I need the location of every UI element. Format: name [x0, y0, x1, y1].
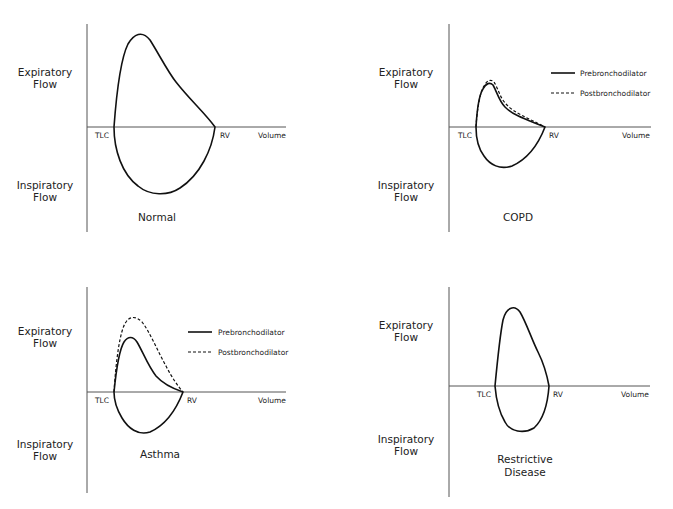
panel-copd: Expiratory Flow Inspiratory Flow TLC RV …	[378, 24, 652, 232]
postbronchodilator-curve	[114, 318, 183, 393]
rv-label: RV	[549, 131, 560, 140]
inspiratory-label-line2: Flow	[394, 191, 418, 203]
inspiratory-label-line1: Inspiratory	[17, 438, 74, 450]
legend-prebronchodilator: Prebronchodilator	[580, 69, 647, 78]
expiratory-label-line1: Expiratory	[18, 325, 72, 337]
panel-normal: Expiratory Flow Inspiratory Flow TLC RV …	[17, 24, 287, 232]
legend-postbronchodilator: Postbronchodilator	[580, 89, 651, 98]
inspiratory-label-line1: Inspiratory	[378, 433, 435, 445]
panel-title: Asthma	[140, 448, 180, 460]
inspiratory-label-line1: Inspiratory	[378, 179, 435, 191]
panel-title: Normal	[138, 211, 176, 223]
postbronchodilator-curve	[476, 80, 545, 127]
expiratory-label-line2: Flow	[33, 337, 57, 349]
rv-label: RV	[220, 131, 231, 140]
legend-prebronchodilator: Prebronchodilator	[218, 328, 285, 337]
flow-volume-loop	[114, 34, 215, 194]
expiratory-label-line1: Expiratory	[379, 319, 433, 331]
volume-label: Volume	[622, 131, 650, 140]
expiratory-label-line2: Flow	[394, 78, 418, 90]
expiratory-label-line2: Flow	[394, 331, 418, 343]
panel-title-line2: Disease	[504, 466, 545, 478]
expiratory-label-line1: Expiratory	[379, 66, 433, 78]
tlc-label: TLC	[94, 131, 109, 140]
expiratory-label-line1: Expiratory	[18, 66, 72, 78]
tlc-label: TLC	[457, 131, 472, 140]
rv-label: RV	[553, 390, 564, 399]
expiratory-label-line2: Flow	[33, 78, 57, 90]
panel-asthma: Expiratory Flow Inspiratory Flow TLC RV …	[17, 287, 290, 493]
flow-volume-loop	[495, 308, 549, 432]
inspiratory-label-line2: Flow	[394, 445, 418, 457]
inspiratory-label-line1: Inspiratory	[17, 179, 74, 191]
rv-label: RV	[187, 396, 198, 405]
tlc-label: TLC	[94, 396, 109, 405]
volume-label: Volume	[258, 131, 286, 140]
panel-restrictive: Expiratory Flow Inspiratory Flow TLC RV …	[378, 287, 650, 497]
inspiratory-label-line2: Flow	[33, 191, 57, 203]
inspiratory-label-line2: Flow	[33, 450, 57, 462]
prebronchodilator-curve	[114, 338, 183, 434]
panel-title-line1: Restrictive	[497, 453, 553, 465]
flow-volume-diagram: Expiratory Flow Inspiratory Flow TLC RV …	[0, 0, 673, 509]
tlc-label: TLC	[476, 390, 491, 399]
volume-label: Volume	[258, 396, 286, 405]
panel-title: COPD	[503, 211, 533, 223]
prebronchodilator-curve	[476, 83, 545, 167]
legend-postbronchodilator: Postbronchodilator	[218, 348, 289, 357]
volume-label: Volume	[621, 390, 649, 399]
